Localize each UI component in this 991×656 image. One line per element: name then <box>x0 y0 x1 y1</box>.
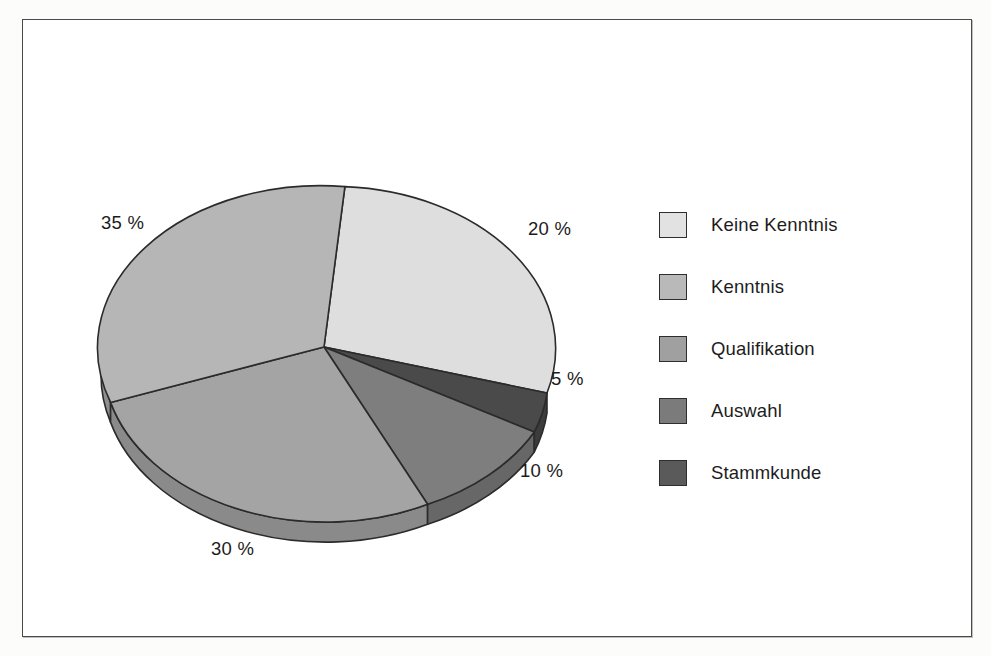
pie-top-face <box>97 186 555 523</box>
legend-item-label: Auswahl <box>711 400 782 422</box>
legend-swatch-icon <box>659 460 687 486</box>
data-label-kenntnis: 30 % <box>211 538 254 560</box>
legend-item-auswahl: Auswahl <box>659 380 949 442</box>
legend-item-label: Kenntnis <box>711 276 784 298</box>
chart-frame: 35 % 20 % 5 % 10 % 30 % Keine Kenntnis K… <box>22 19 972 637</box>
legend-item-label: Stammkunde <box>711 462 822 484</box>
data-label-stammkunde: 5 % <box>551 368 584 390</box>
legend-item-keine-kenntnis: Keine Kenntnis <box>659 194 949 256</box>
chart-page: 35 % 20 % 5 % 10 % 30 % Keine Kenntnis K… <box>0 0 991 656</box>
legend-swatch-icon <box>659 212 687 238</box>
chart-legend: Keine Kenntnis Kenntnis Qualifikation Au… <box>659 194 949 504</box>
pie-chart-graphic <box>63 140 623 570</box>
legend-swatch-icon <box>659 336 687 362</box>
data-label-qualifikation: 35 % <box>101 212 144 234</box>
data-label-auswahl: 10 % <box>520 460 563 482</box>
legend-item-stammkunde: Stammkunde <box>659 442 949 504</box>
legend-swatch-icon <box>659 274 687 300</box>
data-label-keine-kenntnis: 20 % <box>528 218 571 240</box>
legend-swatch-icon <box>659 398 687 424</box>
legend-item-label: Keine Kenntnis <box>711 214 838 236</box>
legend-item-kenntnis: Kenntnis <box>659 256 949 318</box>
legend-item-label: Qualifikation <box>711 338 815 360</box>
legend-item-qualifikation: Qualifikation <box>659 318 949 380</box>
